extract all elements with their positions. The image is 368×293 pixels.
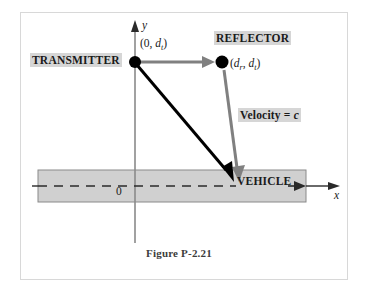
ray-transmitter-to-vehicle — [137, 65, 226, 170]
vehicle-label-text: VEHICLE — [237, 175, 291, 187]
transmitter-label: TRANSMITTER — [30, 55, 122, 67]
y-axis-arrowhead — [131, 20, 139, 32]
reflector-label: REFLECTOR — [214, 33, 291, 45]
reflector-coordinate-label: (dr, dt) — [230, 58, 260, 72]
transmitter-coord-open: (0, — [140, 37, 155, 49]
reflector-dot — [216, 56, 229, 69]
vehicle-label: VEHICLE — [237, 176, 291, 188]
velocity-label-text: Velocity = c — [238, 108, 301, 122]
transmitter-coordinate-label: (0, dt) — [140, 38, 167, 52]
velocity-value: c — [294, 109, 299, 121]
figure-caption: Figure P-2.21 — [146, 248, 212, 259]
transmitter-dot — [129, 56, 141, 68]
ray-reflector-to-vehicle — [224, 70, 237, 168]
transmitter-label-text: TRANSMITTER — [30, 53, 122, 67]
velocity-prefix: Velocity = — [240, 109, 294, 121]
ray-transmitter-to-reflector-arrowhead — [202, 56, 215, 68]
reflector-coord-close: ) — [256, 57, 260, 69]
figure-page: TRANSMITTER REFLECTOR Velocity = c VEHIC… — [0, 0, 368, 293]
y-axis-label: y — [142, 20, 147, 32]
x-axis-label: x — [334, 190, 339, 202]
origin-label: 0 — [116, 186, 122, 198]
velocity-label: Velocity = c — [238, 110, 301, 122]
reflector-label-text: REFLECTOR — [214, 31, 291, 45]
transmitter-coord-close: ) — [163, 37, 167, 49]
